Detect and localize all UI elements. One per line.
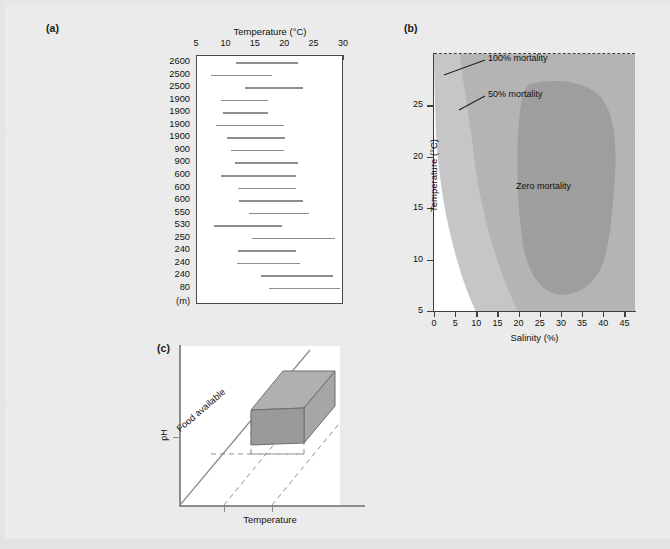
- panel-a-range-bar: [227, 137, 285, 139]
- panel-a-altitude-value: 1900: [156, 106, 190, 116]
- panel-a-altitude-value: 900: [156, 156, 190, 166]
- panel-b-x-tick-label: 35: [577, 318, 587, 328]
- panel-a-range-bar: [236, 62, 298, 64]
- panel-a-tick-label: 15: [250, 38, 260, 48]
- panel-a-range-bar: [249, 213, 309, 215]
- panel-b-y-tick-label: 20: [401, 151, 423, 161]
- panel-a-unit-label: (m): [156, 296, 190, 306]
- panel-c-label: (c): [157, 342, 170, 354]
- panel-b-x-tick-label: 45: [619, 318, 629, 328]
- panel-a-range-bar: [221, 175, 297, 177]
- panel-a-altitude-value: 240: [156, 269, 190, 279]
- panel-a-tick-label: 10: [220, 38, 230, 48]
- annotation-50-mortality: 50% mortality: [488, 89, 543, 99]
- panel-a-altitude-value: 2600: [156, 56, 190, 66]
- panel-a: (a) Temperature (°C) 51015202530 Ranuncu…: [0, 0, 370, 340]
- panel-a-altitude-value: 900: [156, 144, 190, 154]
- panel-b-y-tick-label: 10: [401, 254, 423, 264]
- figure-canvas: (a) Temperature (°C) 51015202530 Ranuncu…: [0, 0, 670, 549]
- panel-c-y-tick: [173, 437, 180, 438]
- panel-a-altitude-value: 250: [156, 232, 190, 242]
- panel-a-tick-label: 20: [279, 38, 289, 48]
- panel-b-x-tick-label: 40: [598, 318, 608, 328]
- panel-a-range-bar: [216, 125, 284, 127]
- panel-b-x-tick-label: 5: [453, 318, 458, 328]
- panel-a-plot-area: [196, 55, 343, 304]
- annotation-100-mortality: 100% mortality: [488, 53, 548, 63]
- panel-a-altitude-value: 600: [156, 194, 190, 204]
- panel-a-tick-label: 5: [193, 38, 198, 48]
- panel-a-range-bar: [223, 112, 268, 114]
- panel-b-x-tick-mark: [455, 312, 456, 317]
- panel-a-range-bar: [269, 288, 341, 290]
- panel-b-x-tick-label: 25: [535, 318, 545, 328]
- annotation-zero-mortality: Zero mortality: [516, 181, 571, 191]
- panel-a-range-bar: [235, 162, 297, 164]
- panel-a-altitude-value: 80: [156, 282, 190, 292]
- panel-b-y-tick-label: 15: [401, 202, 423, 212]
- panel-b-y-tick-mark: [427, 105, 433, 106]
- panel-a-range-bar: [214, 225, 282, 227]
- panel-b-x-tick-label: 0: [431, 318, 436, 328]
- panel-a-label: (a): [46, 22, 59, 34]
- panel-a-altitude-value: 600: [156, 182, 190, 192]
- panel-b-x-axis: [433, 311, 636, 312]
- panel-a-range-bar: [231, 150, 285, 152]
- panel-a-range-bar: [252, 238, 335, 240]
- panel-b-x-axis-title: Salinity (%): [434, 332, 635, 343]
- panel-b-y-tick-label: 5: [401, 305, 423, 315]
- panel-b-x-tick-label: 10: [471, 318, 481, 328]
- panel-a-altitude-value: 1900: [156, 131, 190, 141]
- panel-b-x-tick-mark: [561, 312, 562, 317]
- panel-c-x-tick-1: [224, 506, 225, 512]
- panel-a-range-bar: [238, 250, 296, 252]
- panel-b-x-tick-mark: [603, 312, 604, 317]
- panel-b-label: (b): [404, 22, 418, 34]
- panel-b-x-tick-mark: [434, 312, 435, 317]
- panel-b-x-tick-label: 30: [556, 318, 566, 328]
- panel-b-y-tick-mark: [427, 311, 433, 312]
- panel-a-axis-title: Temperature (°C): [196, 26, 344, 37]
- panel-b-x-tick-mark: [540, 312, 541, 317]
- panel-a-range-bar: [237, 263, 301, 265]
- panel-b-x-tick-label: 20: [514, 318, 524, 328]
- panel-a-tick-mark: [343, 55, 344, 60]
- panel-b: (b) 510152025 051015202530354045 Salinit…: [400, 0, 670, 345]
- panel-c-niche-diagram: [180, 346, 340, 506]
- panel-c-x-tick-2: [272, 506, 273, 512]
- panel-a-altitude-value: 2500: [156, 81, 190, 91]
- panel-b-x-tick-mark: [624, 312, 625, 317]
- panel-a-altitude-value: 530: [156, 219, 190, 229]
- panel-b-x-tick-mark: [476, 312, 477, 317]
- panel-b-y-tick-label: 25: [401, 99, 423, 109]
- panel-a-tick-label: 30: [338, 38, 348, 48]
- panel-a-range-bar: [211, 75, 273, 77]
- panel-b-y-tick-mark: [427, 260, 433, 261]
- panel-a-range-bar: [238, 188, 297, 190]
- panel-a-altitude-value: 240: [156, 257, 190, 267]
- panel-c-plot-area: [180, 346, 340, 506]
- panel-a-altitude-value: 240: [156, 244, 190, 254]
- panel-a-tick-label: 25: [309, 38, 319, 48]
- panel-b-x-tick-mark: [582, 312, 583, 317]
- panel-a-altitude-value: 600: [156, 169, 190, 179]
- panel-a-range-bar: [245, 87, 303, 89]
- panel-a-altitude-value: 1900: [156, 119, 190, 129]
- panel-b-y-axis-title: Temperature (°C): [428, 116, 439, 236]
- panel-c-y-axis-label: pH: [159, 423, 169, 447]
- niche-box-front-face: [251, 408, 304, 445]
- panel-b-x-tick-mark: [519, 312, 520, 317]
- panel-a-altitude-value: 2500: [156, 69, 190, 79]
- panel-a-altitude-value: 550: [156, 207, 190, 217]
- panel-a-altitude-value: 1900: [156, 94, 190, 104]
- panel-b-x-tick-label: 15: [492, 318, 502, 328]
- panel-a-range-bar: [221, 100, 269, 102]
- panel-a-range-bar: [261, 275, 334, 277]
- panel-b-x-tick-mark: [497, 312, 498, 317]
- panel-c-x-axis-label: Temperature: [200, 514, 340, 525]
- panel-a-range-bar: [239, 200, 303, 202]
